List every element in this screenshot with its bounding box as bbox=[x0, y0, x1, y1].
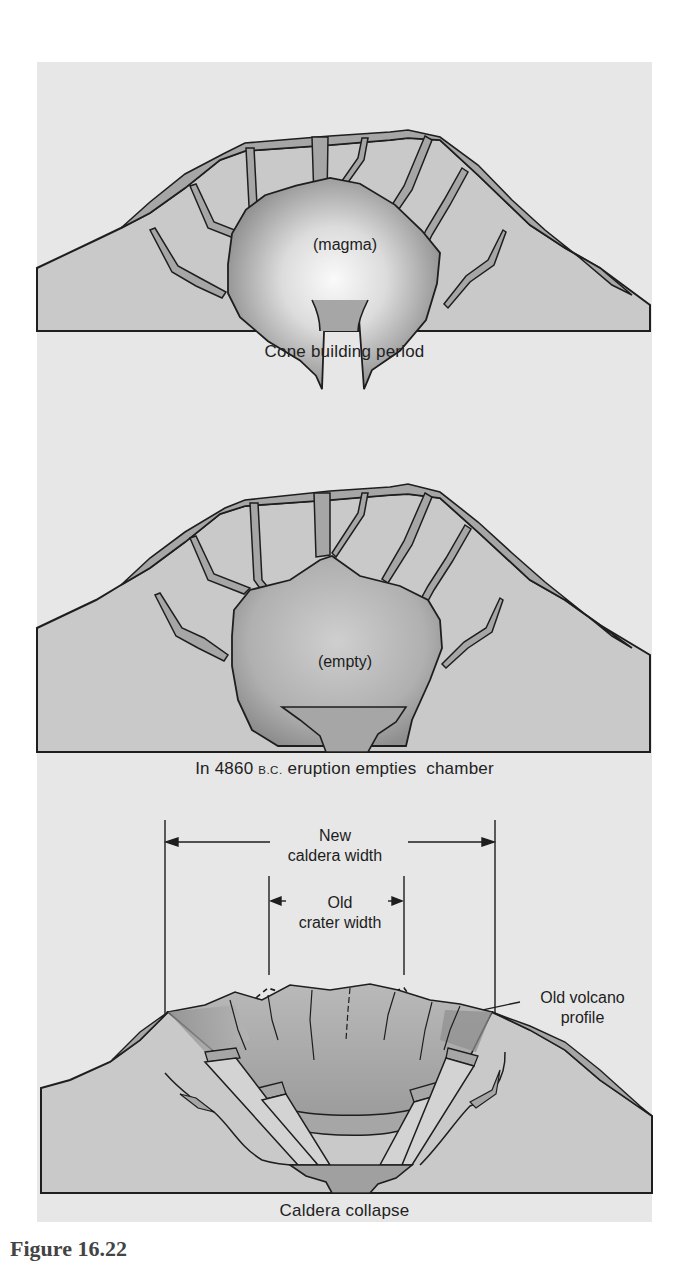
old-volcano-profile-label: Old volcano profile bbox=[520, 988, 645, 1028]
caption-cone-building: Cone building period bbox=[37, 342, 652, 362]
caption-suffix: eruption empties chamber bbox=[283, 759, 494, 778]
panel-empty-chamber bbox=[37, 484, 650, 752]
figure-number-caption: Figure 16.22 bbox=[10, 1236, 127, 1262]
old-profile-line2: profile bbox=[520, 1008, 645, 1028]
old-crater-line2: crater width bbox=[285, 913, 395, 933]
empty-label: (empty) bbox=[280, 652, 410, 672]
caption-caldera-collapse: Caldera collapse bbox=[37, 1201, 652, 1221]
new-caldera-line1: New bbox=[265, 826, 405, 846]
new-caldera-line2: caldera width bbox=[265, 846, 405, 866]
new-caldera-width-label: New caldera width bbox=[265, 826, 405, 866]
caption-eruption-empties-chamber: In 4860 B.C. eruption empties chamber bbox=[37, 759, 652, 779]
caption-era: B.C. bbox=[258, 764, 282, 776]
old-profile-line1: Old volcano bbox=[520, 988, 645, 1008]
old-crater-line1: Old bbox=[285, 893, 395, 913]
old-crater-width-label: Old crater width bbox=[285, 893, 395, 933]
magma-label: (magma) bbox=[280, 235, 410, 255]
caption-prefix: In 4860 bbox=[195, 759, 258, 778]
